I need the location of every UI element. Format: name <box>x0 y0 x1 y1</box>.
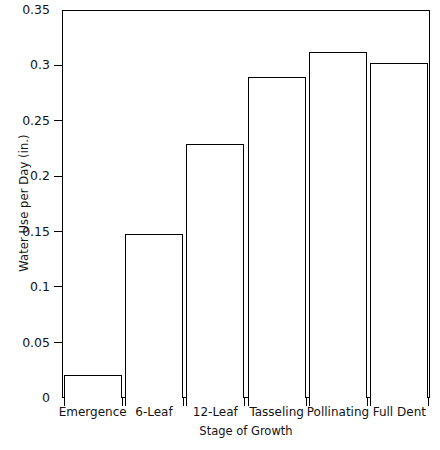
bars-layer <box>62 10 430 398</box>
x-axis-title: Stage of Growth <box>62 424 430 438</box>
bar-chart: Water Use per Day (in.) 00.050.10.150.20… <box>0 0 440 450</box>
bar <box>64 375 122 398</box>
bar <box>248 77 306 398</box>
y-tick-label: 0.05 <box>0 335 50 350</box>
y-tick-label: 0.15 <box>0 224 50 239</box>
x-category-label: Full Dent <box>361 405 438 419</box>
bar <box>370 63 428 398</box>
y-tick-label: 0.35 <box>0 2 50 17</box>
y-tick-label: 0.25 <box>0 113 50 128</box>
bar <box>186 144 244 398</box>
y-tick-label: 0.1 <box>0 279 50 294</box>
y-tick-label: 0 <box>0 390 50 405</box>
bar <box>125 234 183 398</box>
y-axis-title: Water Use per Day (in.) <box>17 103 31 303</box>
bar <box>309 52 367 398</box>
y-tick-label: 0.2 <box>0 168 50 183</box>
y-tick-label: 0.3 <box>0 57 50 72</box>
